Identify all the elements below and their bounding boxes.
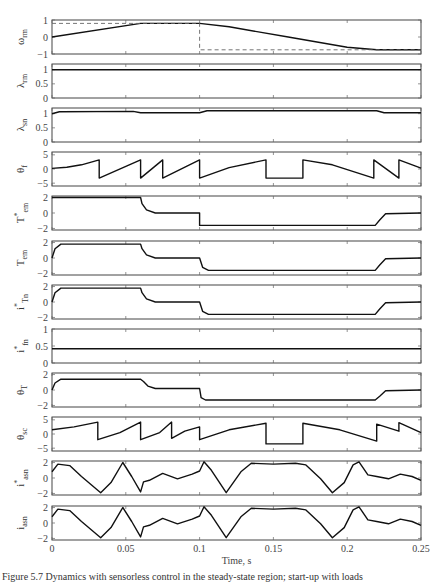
series-theta_T	[52, 379, 421, 400]
panel-i_asn: −202iasn	[14, 502, 421, 544]
series-i_Tn_ref	[52, 288, 421, 314]
x-axis-title: Time, s	[222, 555, 252, 566]
panel-lambda_rm: 00.51λrm	[14, 64, 421, 104]
y-tick-label: 0	[43, 253, 48, 264]
panel-lambda_sn: 00.51λsn	[14, 108, 421, 148]
series-T_em_ref	[52, 198, 421, 226]
axes-frame	[52, 373, 421, 407]
y-axis-label-T_em: Tem	[14, 249, 29, 266]
y-tick-label: 0.5	[36, 78, 49, 89]
y-tick-label: 0	[43, 164, 48, 175]
y-tick-label: 0	[43, 297, 48, 308]
y-tick-label: 2	[43, 281, 48, 292]
y-axis-label-i_fn_ref: i*fn	[13, 339, 30, 353]
y-tick-label: 0	[43, 518, 48, 529]
series-i_asn	[52, 507, 421, 538]
y-tick-label: 1	[43, 15, 48, 26]
y-tick-label: 2	[43, 369, 48, 380]
panel-T_em_ref: −202T*em	[13, 192, 421, 234]
y-axis-label-i_asn_ref: i*asn	[13, 469, 30, 487]
y-tick-label: 0	[43, 208, 48, 219]
y-axis-label-theta_T: θT	[14, 385, 29, 395]
series-omega_rm	[52, 23, 421, 49]
panel-i_asn_ref: −202i*asn	[13, 457, 421, 499]
x-tick-label: 0.1	[193, 543, 206, 554]
y-tick-label: −2	[37, 223, 48, 234]
y-tick-label: 0.5	[36, 122, 49, 133]
y-tick-label: 0	[43, 93, 48, 104]
y-axis-label-T_em_ref: T*em	[13, 202, 30, 223]
axes-frame	[52, 329, 421, 363]
y-tick-label: 0	[43, 358, 48, 369]
y-tick-label: 0	[43, 32, 48, 43]
y-tick-label: 5	[43, 414, 48, 425]
x-tick-label: 0.05	[117, 543, 135, 554]
series-theta_f	[52, 160, 421, 178]
y-tick-label: 0	[43, 429, 48, 440]
panel-theta_T: −202θT	[14, 369, 421, 411]
y-tick-label: −5	[37, 443, 48, 454]
panel-i_Tn_ref: −202i*Tn	[13, 281, 421, 323]
y-tick-label: 2	[43, 237, 48, 248]
y-tick-label: 1	[43, 324, 48, 335]
series-theta_sc	[52, 422, 421, 444]
x-tick-label: 0.25	[412, 543, 430, 554]
y-axis-label-lambda_sn: λsn	[14, 119, 29, 131]
y-tick-label: −2	[37, 533, 48, 544]
y-tick-label: 2	[43, 192, 48, 203]
y-tick-label: −2	[37, 312, 48, 323]
y-axis-label-lambda_rm: λrm	[14, 73, 29, 88]
y-axis-label-theta_sc: θsc	[14, 428, 29, 440]
y-axis-label-omega_rm: ωrm	[14, 28, 29, 45]
y-tick-label: −2	[37, 488, 48, 499]
y-axis-label-theta_f: θf	[14, 165, 29, 173]
figure-caption: Figure 5.7 Dynamics with sensorless cont…	[2, 571, 443, 582]
panel-T_em: −202Tem	[14, 237, 421, 279]
y-tick-label: −1	[37, 49, 48, 60]
y-tick-label: 0	[43, 385, 48, 396]
series-T_em	[52, 244, 421, 270]
series-lambda_sn	[52, 111, 421, 114]
y-tick-label: −5	[37, 178, 48, 189]
panel-theta_sc: −505θsc	[14, 414, 421, 453]
y-tick-label: −2	[37, 268, 48, 279]
y-tick-label: 2	[43, 502, 48, 513]
x-tick-label: 0.15	[265, 543, 283, 554]
y-tick-label: 0	[43, 137, 48, 148]
y-tick-label: 0.5	[36, 341, 49, 352]
y-tick-label: 0	[43, 473, 48, 484]
panel-i_fn_ref: 00.51i*fn	[13, 324, 421, 369]
x-tick-label: 0.2	[341, 543, 354, 554]
y-tick-label: 5	[43, 149, 48, 160]
series-omega_rm_ref	[52, 23, 421, 49]
y-tick-label: 1	[43, 64, 48, 75]
y-axis-label-i_Tn_ref: i*Tn	[13, 294, 30, 310]
panel-theta_f: −505θf	[14, 149, 421, 188]
panel-omega_rm: −101ωrm	[14, 15, 421, 60]
y-tick-label: 2	[43, 457, 48, 468]
axes-frame	[52, 152, 421, 186]
series-i_asn_ref	[52, 462, 421, 493]
axes-frame	[52, 417, 421, 451]
y-tick-label: −2	[37, 400, 48, 411]
y-tick-label: 1	[43, 108, 48, 119]
y-axis-label-i_asn: iasn	[14, 516, 29, 530]
axes-frame	[52, 108, 421, 142]
x-tick-label: 0	[50, 543, 55, 554]
